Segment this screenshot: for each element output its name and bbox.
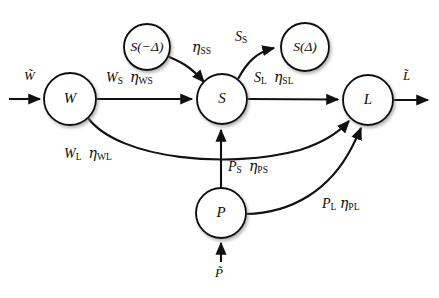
edge-label-pl-flux: P xyxy=(322,196,331,211)
edge-label-sl-flux-sub: L xyxy=(261,76,267,86)
edge-label-pl-eta-sub: PL xyxy=(348,202,359,212)
node-l-label: L xyxy=(363,91,372,107)
input-label-p-tilde: P̃ xyxy=(215,265,223,281)
edge-label-pl-flux-sub: L xyxy=(331,202,337,212)
edge-s-to-l xyxy=(248,99,338,100)
edge-label-ws-flux-sub: S xyxy=(118,76,123,86)
edge-label-wl: WL ηWL xyxy=(64,146,112,163)
edge-label-wl-flux-sub: L xyxy=(76,152,82,162)
node-s[interactable]: S xyxy=(197,74,247,124)
edge-label-wl-eta-sub: WL xyxy=(97,152,112,162)
input-label-w-tilde: W̃ xyxy=(24,68,35,84)
diagram-canvas: W S(−Δ) S S(Δ) L P W̃ L̃ P̃ WS ηWS SL xyxy=(0,0,439,298)
output-label-l-tilde: L̃ xyxy=(403,68,410,84)
edge-label-pl: PL ηPL xyxy=(322,196,360,213)
edge-label-ss-flux: SS xyxy=(235,30,247,46)
edge-label-ws-eta-sub: WS xyxy=(138,76,152,86)
edge-label-wl-flux: W xyxy=(64,146,76,161)
edge-label-sl: SL ηSL xyxy=(254,70,294,87)
node-s-next[interactable]: S(Δ) xyxy=(281,23,329,71)
edge-label-ws: WS ηWS xyxy=(106,70,153,87)
node-l[interactable]: L xyxy=(343,75,393,125)
node-w-label: W xyxy=(64,90,78,106)
edge-label-sl-eta-sub: SL xyxy=(282,76,293,86)
node-s-label: S xyxy=(218,90,226,106)
edge-label-ps-flux-sub: S xyxy=(237,165,242,175)
node-s-prev[interactable]: S(−Δ) xyxy=(124,24,170,70)
eta-symbol: η xyxy=(89,145,97,161)
node-s-prev-label: S(−Δ) xyxy=(131,39,164,54)
node-p-label: P xyxy=(215,204,225,220)
node-s-next-label: S(Δ) xyxy=(293,39,317,54)
edge-label-ss-flux-main: S xyxy=(235,29,242,44)
edge-label-sl-flux: S xyxy=(254,70,261,85)
edge-label-ps: PS ηPS xyxy=(228,159,268,176)
edge-label-ws-flux: W xyxy=(106,70,118,85)
edge-label-ss-eta: ηSS xyxy=(192,40,211,57)
edge-label-ps-flux: P xyxy=(228,159,237,174)
edge-label-ss-flux-sub: S xyxy=(242,35,247,45)
edge-sprev-to-s xyxy=(167,56,204,82)
edge-label-ss-eta-sub: SS xyxy=(200,46,211,56)
node-w[interactable]: W xyxy=(44,73,96,125)
edge-label-ps-eta-sub: PS xyxy=(257,165,268,175)
node-p[interactable]: P xyxy=(196,188,246,238)
